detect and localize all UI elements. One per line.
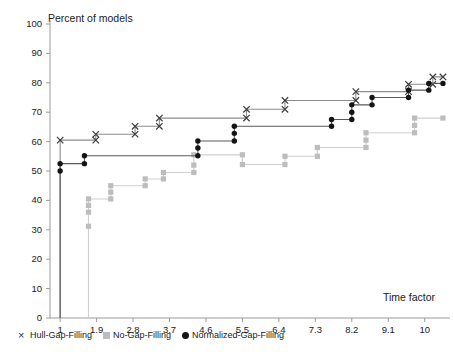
data-point <box>161 170 166 175</box>
data-point <box>57 161 62 166</box>
data-point <box>369 102 374 107</box>
data-point <box>412 130 417 135</box>
data-point <box>329 117 334 122</box>
data-point <box>191 170 196 175</box>
data-point <box>108 190 113 195</box>
square-marker-icon <box>103 332 110 339</box>
data-point <box>440 81 445 86</box>
x-tick-label: 7.3 <box>300 324 330 335</box>
data-point <box>108 183 113 188</box>
x-tick-label: 10 <box>410 324 440 335</box>
legend-item: No-Gap-Filling <box>103 330 171 340</box>
data-point <box>195 138 200 143</box>
data-point <box>195 145 200 150</box>
circle-marker-icon <box>182 332 189 339</box>
data-point <box>282 162 287 167</box>
legend-label: Normalized-Gap-Filling <box>192 330 284 340</box>
series-line <box>60 83 443 318</box>
legend-item: Normalized-Gap-Filling <box>182 330 284 340</box>
data-point <box>191 163 196 168</box>
data-point <box>315 154 320 159</box>
chart-root: Percent of models Time factor 0102030405… <box>0 0 453 352</box>
series-no-gap-filling <box>60 115 445 318</box>
legend-label: Hull-Gap-Filling <box>30 330 92 340</box>
x-marker-icon: × <box>18 331 27 340</box>
series-line <box>60 77 443 318</box>
data-point <box>412 115 417 120</box>
y-tick-label: 90 <box>18 47 42 58</box>
data-point <box>82 161 87 166</box>
series-line <box>60 118 443 318</box>
data-point <box>363 138 368 143</box>
data-point <box>86 203 91 208</box>
chart-legend: ×Hull-Gap-FillingNo-Gap-FillingNormalize… <box>18 330 290 340</box>
y-tick-label: 10 <box>18 283 42 294</box>
x-tick-label: 8.2 <box>337 324 367 335</box>
data-point <box>315 145 320 150</box>
y-tick-label: 60 <box>18 136 42 147</box>
data-point <box>82 153 87 158</box>
data-point <box>240 162 245 167</box>
y-tick-label: 70 <box>18 106 42 117</box>
data-point <box>412 123 417 128</box>
data-point <box>86 210 91 215</box>
data-point <box>406 95 411 100</box>
data-point <box>349 102 354 107</box>
y-tick-label: 20 <box>18 253 42 264</box>
series-hull-gap-filling <box>57 74 446 318</box>
data-point <box>57 168 62 173</box>
data-point <box>363 130 368 135</box>
data-point <box>282 154 287 159</box>
y-tick-label: 100 <box>18 18 42 29</box>
data-point <box>349 117 354 122</box>
data-point <box>232 138 237 143</box>
legend-label: No-Gap-Filling <box>113 330 171 340</box>
legend-item: ×Hull-Gap-Filling <box>18 330 92 340</box>
data-point <box>349 110 354 115</box>
data-point <box>369 95 374 100</box>
x-tick-label: 9.1 <box>373 324 403 335</box>
data-point <box>329 124 334 129</box>
y-tick-label: 40 <box>18 194 42 205</box>
series-normalized-gap-filling <box>57 81 445 318</box>
y-tick-label: 0 <box>18 312 42 323</box>
data-point <box>86 224 91 229</box>
data-point <box>240 152 245 157</box>
data-point <box>406 87 411 92</box>
data-point <box>232 124 237 129</box>
data-point <box>143 183 148 188</box>
plot-area <box>0 0 453 352</box>
y-tick-label: 80 <box>18 77 42 88</box>
y-tick-label: 30 <box>18 224 42 235</box>
data-point <box>232 131 237 136</box>
data-point <box>426 87 431 92</box>
y-tick-label: 50 <box>18 165 42 176</box>
data-point <box>161 176 166 181</box>
data-point <box>426 81 431 86</box>
data-point <box>108 196 113 201</box>
data-point <box>363 145 368 150</box>
data-point <box>195 153 200 158</box>
data-point <box>86 196 91 201</box>
data-point <box>143 176 148 181</box>
data-point <box>440 115 445 120</box>
